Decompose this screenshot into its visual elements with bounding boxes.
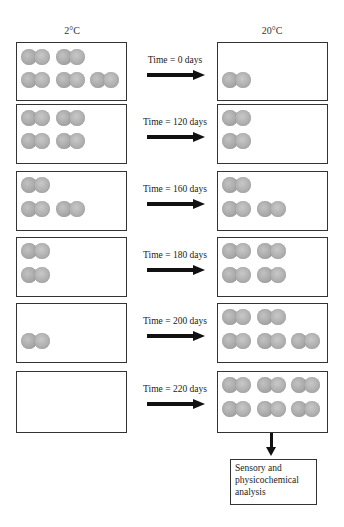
cheese-pair-icon — [222, 243, 253, 259]
cheese-pair-icon — [222, 201, 253, 217]
time-label: Time = 220 days — [135, 384, 215, 394]
header-20c: 20°C — [242, 25, 302, 36]
right-arrow-icon — [147, 399, 205, 409]
right-sample-box-1 — [217, 104, 328, 164]
right-arrow-icon — [147, 265, 205, 275]
right-sample-box-2 — [217, 171, 328, 231]
cheese-pair-icon — [257, 243, 288, 259]
left-sample-box-2 — [16, 171, 127, 231]
time-label: Time = 120 days — [135, 117, 215, 127]
cheese-pair-icon — [222, 110, 253, 126]
cheese-pair-icon — [21, 110, 52, 126]
cheese-pair-icon — [21, 333, 52, 349]
cheese-pair-icon — [56, 72, 87, 88]
cheese-pair-icon — [56, 110, 87, 126]
right-sample-box-0 — [217, 42, 328, 101]
time-label: Time = 200 days — [135, 316, 215, 326]
cheese-pair-icon — [21, 201, 52, 217]
cheese-pair-icon — [291, 377, 322, 393]
left-sample-box-5 — [16, 371, 127, 433]
cheese-pair-icon — [21, 49, 52, 65]
cheese-pair-icon — [21, 267, 52, 283]
right-arrow-icon — [147, 199, 205, 209]
cheese-pair-icon — [222, 401, 253, 417]
down-arrow-icon — [266, 433, 278, 457]
left-sample-box-4 — [16, 303, 127, 363]
left-sample-box-1 — [16, 104, 127, 164]
cheese-pair-icon — [21, 133, 52, 149]
cheese-pair-icon — [257, 201, 288, 217]
right-arrow-icon — [147, 132, 205, 142]
cheese-pair-icon — [257, 267, 288, 283]
cheese-pair-icon — [56, 133, 87, 149]
cheese-pair-icon — [21, 243, 52, 259]
cheese-pair-icon — [222, 133, 253, 149]
cheese-pair-icon — [222, 333, 253, 349]
cheese-pair-icon — [21, 72, 52, 88]
cheese-pair-icon — [257, 401, 288, 417]
right-arrow-icon — [147, 331, 205, 341]
cheese-pair-icon — [222, 309, 253, 325]
left-sample-box-3 — [16, 237, 127, 297]
cheese-pair-icon — [222, 377, 253, 393]
cheese-pair-icon — [56, 201, 87, 217]
right-sample-box-4 — [217, 303, 328, 363]
right-sample-box-3 — [217, 237, 328, 297]
header-2c: 2°C — [42, 25, 102, 36]
left-sample-box-0 — [16, 42, 127, 101]
cheese-pair-icon — [222, 72, 253, 88]
cheese-pair-icon — [21, 177, 52, 193]
time-label: Time = 0 days — [135, 55, 215, 65]
time-label: Time = 180 days — [135, 250, 215, 260]
cheese-pair-icon — [291, 333, 322, 349]
cheese-pair-icon — [222, 267, 253, 283]
cheese-pair-icon — [257, 309, 288, 325]
cheese-pair-icon — [222, 177, 253, 193]
time-label: Time = 160 days — [135, 184, 215, 194]
analysis-box: Sensory and physicochemical analysis — [230, 459, 317, 505]
right-sample-box-5 — [217, 371, 328, 433]
cheese-pair-icon — [56, 49, 87, 65]
right-arrow-icon — [147, 70, 205, 80]
cheese-pair-icon — [257, 333, 288, 349]
cheese-pair-icon — [291, 401, 322, 417]
cheese-pair-icon — [257, 377, 288, 393]
cheese-pair-icon — [90, 72, 121, 88]
